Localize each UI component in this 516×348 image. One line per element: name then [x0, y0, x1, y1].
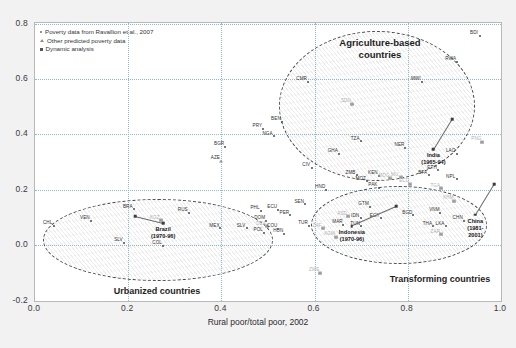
data-point-aze: [219, 159, 223, 162]
data-point-hun: [283, 233, 285, 235]
data-label-aze: AZE: [211, 155, 220, 160]
data-point-gha: [338, 153, 340, 155]
legend-label-2: Dynamic analysis: [46, 45, 94, 54]
data-point-tun: [360, 225, 362, 227]
ellipse-transforming: [311, 186, 487, 264]
data-point-lao: [456, 153, 458, 155]
data-label-mex: MEX: [209, 222, 219, 227]
data-point-tha: [432, 225, 434, 227]
annotation-china: China(1981-2001): [463, 218, 489, 239]
data-point-vnm: [439, 212, 441, 214]
data-point-slv: [246, 227, 248, 229]
legend-label-0: Poverty data from Ravallion et al., 2007: [45, 28, 153, 37]
annotation-india: India(1965-94): [421, 152, 445, 166]
data-point-ner: [404, 147, 406, 149]
data-label-col: COL: [152, 240, 162, 245]
legend-item-other-predicted: Other predicted poverty data: [40, 37, 153, 46]
data-label-ecu: ECU: [267, 204, 277, 209]
data-point-phl: [260, 210, 262, 212]
data-point-ben: [281, 121, 283, 123]
data-point-bgd: [412, 214, 414, 216]
ytick-0: -0.2: [2, 295, 28, 305]
data-label-pry: PRY: [252, 123, 262, 128]
data-point-idn: [360, 217, 362, 219]
data-point-bra: [133, 208, 135, 210]
data-label-bra: BRA: [123, 203, 133, 208]
data-point-mwi: [421, 81, 423, 83]
data-point-ven: [90, 220, 92, 222]
data-label-sdn: SDN: [341, 98, 351, 103]
data-label-pak: PAK: [368, 181, 377, 186]
data-label-sen: SEN: [294, 198, 304, 203]
data-label-mar: MAR: [332, 218, 343, 223]
ytick-2: 0.2: [2, 184, 28, 194]
data-label-zaf: ZAF: [312, 222, 321, 227]
data-label-vnm: VNM: [429, 206, 440, 211]
data-label-per: PER: [279, 209, 289, 214]
xtick-5: 1.0: [494, 303, 506, 313]
data-label-kgm: KGM: [324, 231, 335, 236]
legend: Poverty data from Ravallion et al., 2007…: [40, 28, 153, 54]
data-label-gtm: GTM: [358, 201, 369, 206]
data-point-civ: [311, 167, 313, 169]
data-point-tga: [439, 187, 443, 190]
dynamic-marker-india-start: [451, 118, 454, 121]
data-label-chl: CHL: [43, 220, 53, 225]
dynamic-marker-china-start: [493, 183, 496, 186]
ytick-4: 0.6: [2, 73, 28, 83]
legend-label-1: Other predicted poverty data: [47, 37, 125, 46]
data-point-slv: [123, 242, 125, 244]
data-label-bgd: BGD: [402, 209, 412, 214]
dynamic-marker-indonesia-start: [395, 205, 398, 208]
legend-item-dynamic: Dynamic analysis: [40, 45, 153, 54]
data-point-chl: [53, 225, 55, 227]
annotation-period: (1970-96): [339, 236, 365, 243]
data-label-idn: IDN: [351, 212, 359, 217]
data-label-slv: SLV: [237, 222, 246, 227]
annotation-period: (1965-94): [421, 159, 445, 166]
data-label-dom: DOM: [254, 215, 265, 220]
data-label-bgr: BGR: [214, 141, 224, 146]
data-point-cmr: [307, 81, 309, 83]
data-point-zaf: [321, 227, 325, 230]
data-label-ken: KEN: [368, 170, 378, 175]
annotation-indonesia: Indonesia(1970-96): [339, 229, 365, 243]
data-label-hun: HUN: [273, 228, 283, 233]
data-label-gha: GHA: [328, 148, 338, 153]
dynamic-marker-brazil-start: [134, 215, 137, 218]
xtick-0: 0.0: [28, 303, 40, 313]
data-label-tga: TGA: [430, 182, 440, 187]
xtick-2: 0.4: [214, 303, 226, 313]
data-label-slv: SLV: [114, 237, 123, 242]
data-label-cmr: CMR: [296, 76, 307, 81]
annotation-period: (1970-96): [151, 233, 175, 240]
data-point-tza: [360, 140, 362, 142]
data-label-moz: MOZ: [356, 175, 367, 180]
data-point-col: [162, 245, 164, 247]
ytick-1: 0.0: [2, 239, 28, 249]
data-point-png: [480, 140, 484, 143]
data-point-rus: [188, 212, 190, 214]
data-label-ven: VEN: [80, 215, 90, 220]
data-point-hnd: [325, 189, 327, 191]
data-label-civ: CIV: [302, 161, 310, 166]
data-point-gtm: [369, 206, 371, 208]
data-label-ner: NER: [394, 141, 404, 146]
group-label-urbanized: Urbanized countries: [77, 285, 237, 297]
data-point-pry: [262, 128, 264, 130]
data-point-tur: [308, 225, 310, 227]
data-label-mu: MU: [391, 171, 398, 176]
data-point-khm: [452, 199, 456, 202]
dot-marker-icon: [40, 31, 42, 33]
data-label-tur: TUR: [298, 220, 308, 225]
data-point-asd: [346, 215, 350, 218]
annotation-name: China: [463, 218, 489, 225]
square-marker-icon: [40, 48, 43, 51]
data-label-tha: THA: [423, 220, 433, 225]
data-label-nga: NGA: [262, 130, 272, 135]
data-label-dza: DZA: [256, 220, 266, 225]
annotation-name: India: [421, 152, 445, 159]
data-point-mdg: [388, 177, 392, 180]
data-label-zmb: ZMB: [346, 169, 356, 174]
data-point-egy: [380, 217, 382, 219]
